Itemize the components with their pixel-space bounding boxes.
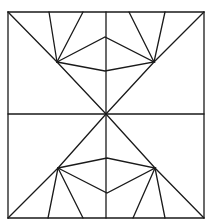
geometric-diagram <box>0 0 208 222</box>
